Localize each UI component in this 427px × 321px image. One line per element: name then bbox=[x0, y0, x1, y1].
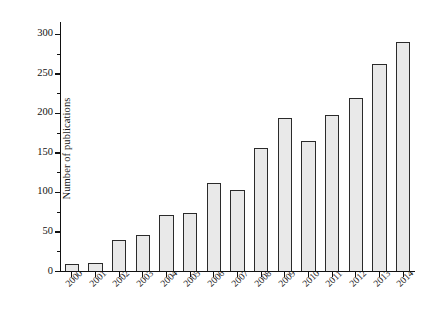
bar-chart-figure: Number of publications 05010015020025030… bbox=[0, 0, 427, 321]
y-tick-minor-mark bbox=[57, 251, 61, 252]
bar-2001 bbox=[88, 263, 102, 271]
bar-2008 bbox=[254, 148, 268, 271]
y-tick-minor-mark bbox=[57, 54, 61, 55]
y-tick-label: 0 bbox=[48, 264, 53, 278]
bar-2010 bbox=[301, 141, 315, 271]
bar-2000 bbox=[65, 264, 79, 271]
bar-2003 bbox=[136, 235, 150, 271]
y-tick-mark bbox=[55, 34, 61, 35]
y-tick-mark bbox=[55, 152, 61, 153]
bar-2013 bbox=[372, 64, 386, 271]
y-tick-label: 200 bbox=[37, 105, 53, 119]
bar-2002 bbox=[112, 240, 126, 271]
bar-2004 bbox=[159, 215, 173, 271]
bar-2006 bbox=[207, 183, 221, 271]
y-tick-minor-mark bbox=[57, 212, 61, 213]
y-tick-label: 100 bbox=[37, 184, 53, 198]
bar-2012 bbox=[349, 98, 363, 271]
bar-2011 bbox=[325, 115, 339, 271]
y-axis-spine bbox=[60, 22, 61, 271]
y-tick-minor-mark bbox=[57, 172, 61, 173]
plot-area: 050100150200250300 200020012002200320042… bbox=[60, 22, 415, 271]
y-tick-minor-mark bbox=[57, 133, 61, 134]
y-tick-mark bbox=[55, 73, 61, 74]
bar-2007 bbox=[230, 190, 244, 271]
y-tick-mark bbox=[55, 231, 61, 232]
y-tick-label: 300 bbox=[37, 26, 53, 40]
y-tick-label: 150 bbox=[37, 145, 53, 159]
y-tick-minor-mark bbox=[57, 93, 61, 94]
y-tick-label: 50 bbox=[43, 224, 54, 238]
bar-2005 bbox=[183, 213, 197, 271]
y-tick-label: 250 bbox=[37, 66, 53, 80]
y-tick-mark bbox=[55, 192, 61, 193]
y-tick-mark bbox=[55, 271, 61, 272]
y-tick-mark bbox=[55, 113, 61, 114]
bar-2009 bbox=[278, 118, 292, 271]
bar-2014 bbox=[396, 42, 410, 271]
